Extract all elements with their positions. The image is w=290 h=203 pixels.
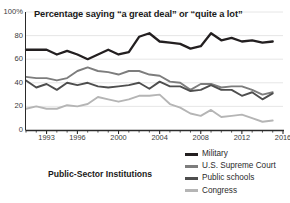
y-tick-label: 100% (1, 8, 23, 16)
legend-label: Congress (202, 187, 237, 195)
legend-swatch-icon (185, 189, 198, 192)
legend-swatch-icon (185, 177, 198, 180)
legend-item[interactable]: Military (185, 148, 276, 160)
y-tick-label: 20 (1, 102, 23, 110)
gridlines (26, 12, 283, 106)
chart-legend: MilitaryU.S. Supreme CourtPublic schools… (185, 148, 276, 197)
x-tick-label: 1993 (38, 133, 54, 142)
legend-item[interactable]: U.S. Supreme Court (185, 160, 276, 172)
legend-label: Military (202, 150, 228, 158)
y-axis-tick-labels: 020406080100% (0, 0, 23, 203)
legend-item[interactable]: Congress (185, 185, 276, 197)
x-tick-label: 2000 (110, 133, 126, 142)
legend-label: U.S. Supreme Court (202, 162, 276, 170)
legend-swatch-icon (185, 165, 198, 168)
line-chart: Percentage saying “a great deal” or “qui… (0, 0, 290, 203)
chart-caption: Public-Sector Institutions (48, 169, 152, 179)
x-tick-label: 2012 (234, 133, 250, 142)
series-lines (26, 33, 273, 122)
y-tick-label: 0 (1, 126, 23, 134)
legend-label: Public schools (202, 174, 254, 182)
chart-title: Percentage saying “a great deal” or “qui… (34, 9, 242, 19)
y-tick-label: 40 (1, 79, 23, 87)
y-tick-label: 80 (1, 32, 23, 40)
x-tick-label: 1996 (69, 133, 85, 142)
x-tick-label: 2004 (151, 133, 167, 142)
legend-item[interactable]: Public schools (185, 172, 276, 184)
x-tick-label: 2016 (275, 133, 290, 142)
x-tick-label: 2008 (193, 133, 209, 142)
y-tick-label: 60 (1, 55, 23, 63)
legend-swatch-icon (185, 153, 198, 156)
